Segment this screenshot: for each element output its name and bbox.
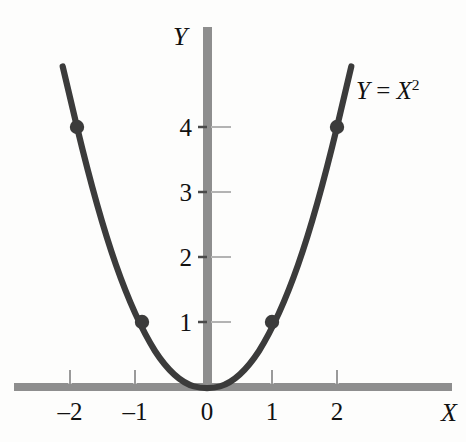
y-tick-label-3: 3 <box>158 180 192 205</box>
data-point <box>330 120 344 134</box>
y-tick-label-4: 4 <box>158 115 192 140</box>
x-tick-label-2: 2 <box>317 399 357 424</box>
equation-equals: = <box>376 77 390 104</box>
x-tick-label--2: –2 <box>50 399 90 424</box>
y-axis-line <box>203 27 212 391</box>
equation-exponent: 2 <box>412 76 420 93</box>
data-point <box>70 120 84 134</box>
x-axis-line <box>14 383 452 391</box>
y-axis-ticks <box>211 127 231 322</box>
equation-base: X <box>397 77 412 104</box>
equation-lhs: Y <box>356 77 370 104</box>
x-tick-label-1: 1 <box>252 399 292 424</box>
parabola-figure: Y X Y = X2 –2 –1 0 1 2 1 2 3 4 <box>0 0 466 442</box>
y-tick-label-2: 2 <box>158 245 192 270</box>
x-axis-label: X <box>441 400 457 426</box>
x-tick-label-0: 0 <box>187 399 227 424</box>
x-tick-label--1: –1 <box>115 399 155 424</box>
data-point <box>265 315 279 329</box>
y-tick-label-1: 1 <box>158 310 192 335</box>
y-axis-label: Y <box>173 24 187 50</box>
plot-canvas <box>0 0 466 442</box>
data-point <box>135 315 149 329</box>
curve-equation-label: Y = X2 <box>356 78 420 103</box>
